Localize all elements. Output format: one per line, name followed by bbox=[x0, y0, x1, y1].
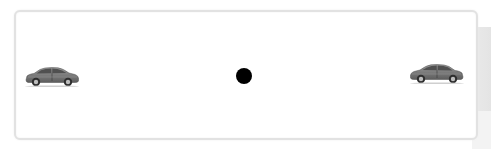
diagram-canvas bbox=[0, 0, 491, 149]
car-right-icon bbox=[409, 62, 465, 84]
center-dot bbox=[236, 68, 252, 84]
car-left-icon bbox=[24, 65, 80, 87]
